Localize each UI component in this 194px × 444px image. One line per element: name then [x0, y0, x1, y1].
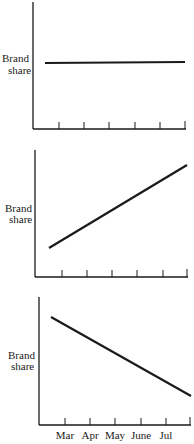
x-tick-labels: Mar Apr May June Jul	[56, 429, 173, 441]
y-axis-label-line2: share	[8, 64, 31, 76]
x-ticks	[59, 121, 185, 129]
series-line-flat	[45, 62, 185, 63]
x-ticks	[62, 269, 187, 277]
x-tick-label: May	[105, 429, 126, 441]
chart-rising: Brand share	[5, 150, 188, 277]
x-ticks	[65, 417, 190, 425]
y-axis-label-line2: share	[9, 213, 32, 225]
x-tick-label: Mar	[56, 429, 75, 441]
x-tick-label: Apr	[81, 429, 98, 441]
y-axis-label-line2: share	[11, 360, 34, 372]
y-axis-label-line1: Brand	[2, 52, 29, 64]
chart-flat: Brand share	[2, 2, 186, 129]
x-tick-label: June	[131, 429, 151, 441]
chart-stack: Brand share Brand share Brand	[0, 0, 194, 444]
chart-declining: Brand share Mar Apr May June Jul	[8, 297, 191, 441]
x-tick-label: Jul	[160, 429, 173, 441]
series-line-rising	[49, 165, 187, 248]
series-line-declining	[51, 317, 191, 396]
